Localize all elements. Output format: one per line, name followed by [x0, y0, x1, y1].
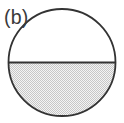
figure-panel: (b)	[0, 0, 124, 123]
half-filled-circle-diagram: (b)	[0, 0, 124, 123]
panel-label: (b)	[4, 6, 28, 28]
